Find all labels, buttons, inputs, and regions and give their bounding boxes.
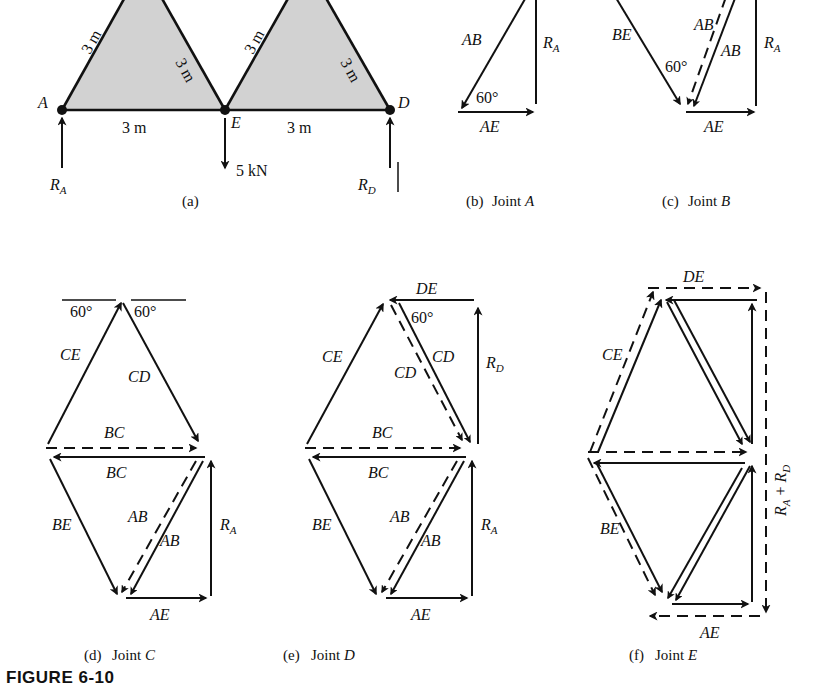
caption-f-title: Joint E <box>655 647 697 663</box>
jointd-label-bc-upper: BC <box>372 424 393 441</box>
jointa-label-ae: AE <box>479 118 500 135</box>
jointe-vector-ce-solid <box>598 300 661 452</box>
reaction-ra-label: RA <box>49 176 67 196</box>
jointa-label-angle: 60° <box>476 89 498 106</box>
jointb-label-angle: 60° <box>665 58 687 75</box>
jointe-vector-ab-a <box>668 468 742 598</box>
jointe-vector-cd-b <box>674 300 750 442</box>
truss-joint-d-node <box>385 105 395 115</box>
truss-joint-e-node <box>220 105 230 115</box>
jointd-label-cd-2: CD <box>432 348 455 365</box>
jointd-label-be: BE <box>312 516 332 533</box>
load-label: 5 kN <box>236 162 268 179</box>
caption-c: (c) <box>662 193 679 210</box>
jointd-vector-ab-solid <box>391 461 464 594</box>
caption-d-title: Joint C <box>112 647 156 663</box>
reaction-rd-label: RD <box>357 176 376 196</box>
jointd-label-ab-2: AB <box>420 532 441 549</box>
truss-span-left: 3 m <box>122 119 147 136</box>
jointc-label-cd: CD <box>128 368 151 385</box>
caption-b-title: Joint A <box>492 193 535 209</box>
jointc-vector-ab-dashed <box>122 461 196 592</box>
jointc-label-ce: CE <box>60 346 81 363</box>
panel-c-joint-b: BE AB AB RA AE 60° <box>604 0 781 135</box>
jointc-label-be: BE <box>52 516 72 533</box>
jointe-label-ce: CE <box>602 346 623 363</box>
jointc-label-bc-upper: BC <box>104 424 125 441</box>
jointe-label-ra-plus-rd: RA + RD <box>772 465 792 517</box>
figure-caption: FIGURE 6-10 <box>6 668 114 688</box>
jointc-label-ra: RA <box>219 516 237 536</box>
caption-d: (d) <box>84 647 102 664</box>
jointe-label-be: BE <box>600 520 620 537</box>
caption-c-group: (c) Joint B <box>662 193 730 210</box>
panel-e-joint-d: DE 60° CE CD CD RD BC BC BE AB AB RA AE <box>305 280 504 623</box>
jointd-label-bc-lower: BC <box>368 464 389 481</box>
truss-label-a: A <box>37 94 48 111</box>
jointc-angle-left: 60° <box>70 303 92 320</box>
jointd-label-ce: CE <box>322 348 343 365</box>
jointb-label-ae: AE <box>703 118 724 135</box>
jointc-vector-ab-solid <box>131 461 203 594</box>
jointe-vector-be-dashed <box>588 458 655 595</box>
jointe-vector-ce-dashed <box>590 292 653 452</box>
figure-page: A E D 3 m 3 m 3 m 3 m 3 m 3 m RA 5 kN RD… <box>0 0 819 691</box>
figure-canvas: A E D 3 m 3 m 3 m 3 m 3 m 3 m RA 5 kN RD… <box>0 0 819 691</box>
jointd-label-ae: AE <box>410 606 431 623</box>
jointd-vector-ab-dashed <box>382 461 457 592</box>
jointc-label-ab-2: AB <box>159 532 180 549</box>
jointc-label-bc-lower: BC <box>106 464 127 481</box>
jointe-vector-ab-b <box>676 466 750 600</box>
caption-e-group: (e) Joint D <box>283 647 355 664</box>
jointd-label-de: DE <box>415 280 438 297</box>
caption-d-group: (d) Joint C <box>84 647 156 664</box>
jointb-vector-be <box>604 0 680 104</box>
jointd-vector-ce <box>307 304 383 444</box>
jointd-label-angle: 60° <box>411 309 433 326</box>
truss-label-e: E <box>230 114 241 131</box>
truss-joint-a-node <box>57 105 67 115</box>
jointe-label-ae: AE <box>699 624 720 641</box>
jointc-vector-ce <box>48 303 121 444</box>
truss-label-d: D <box>397 94 410 111</box>
panel-f-joint-e: DE CE BE AE RA + RD <box>588 268 792 641</box>
jointa-vector-ab <box>462 0 536 108</box>
jointc-angle-right: 60° <box>134 303 156 320</box>
panel-b-joint-a: AB RA AE 60° <box>458 0 560 135</box>
caption-f-group: (f) Joint E <box>629 647 697 664</box>
caption-e: (e) <box>283 647 300 664</box>
jointb-label-be: BE <box>612 26 632 43</box>
jointd-label-ra: RA <box>480 516 498 536</box>
caption-c-title: Joint B <box>688 193 730 209</box>
caption-b-group: (b) Joint A <box>466 193 535 210</box>
caption-e-title: Joint D <box>311 647 355 663</box>
jointb-label-ab-2: AB <box>720 42 741 59</box>
panel-d-joint-c: 60° 60° CE CD BC BC BE AB AB RA AE <box>46 300 237 623</box>
caption-b: (b) <box>466 193 484 210</box>
truss-span-right: 3 m <box>287 119 312 136</box>
jointe-label-de: DE <box>682 268 705 285</box>
jointa-label-ra: RA <box>542 34 560 54</box>
jointa-label-ab: AB <box>461 31 482 48</box>
jointc-label-ab-1: AB <box>127 508 148 525</box>
caption-f: (f) <box>629 647 644 664</box>
jointb-label-ra: RA <box>763 34 781 54</box>
jointc-label-ae: AE <box>149 606 170 623</box>
jointd-label-rd: RD <box>485 354 504 374</box>
panel-a-truss: A E D 3 m 3 m 3 m 3 m 3 m 3 m RA 5 kN RD <box>37 0 410 196</box>
jointd-label-ab-1: AB <box>389 508 410 525</box>
jointb-label-ab-1: AB <box>693 16 714 33</box>
caption-a: (a) <box>182 193 199 210</box>
jointe-vector-cd-a <box>667 302 742 444</box>
jointd-label-cd-1: CD <box>394 364 417 381</box>
